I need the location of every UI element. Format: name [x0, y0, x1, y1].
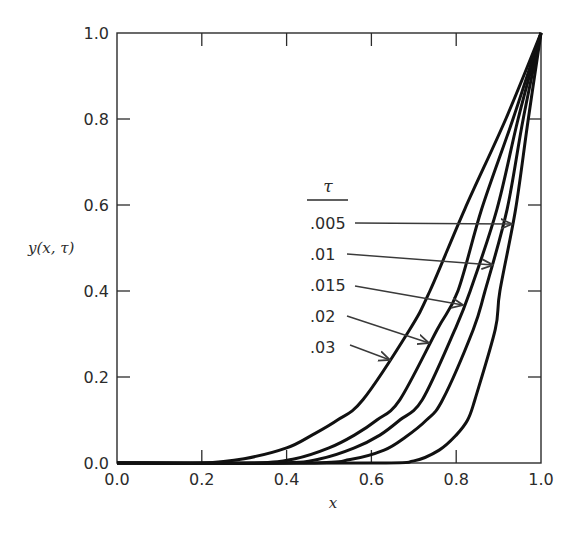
chart: 0.00.20.40.60.81.0 0.00.20.40.60.81.0 x …: [0, 0, 581, 534]
legend-annotations: .005.01.015.02.03: [310, 214, 512, 360]
legend-arrow: [355, 223, 512, 224]
legend-label: .015: [310, 276, 346, 295]
legend-label: .02: [310, 307, 335, 326]
x-tick-labels: 0.00.20.40.60.81.0: [104, 470, 553, 489]
y-tick-label: 0.4: [84, 282, 109, 301]
x-tick-label: 0.4: [274, 470, 299, 489]
x-tick-label: 0.8: [443, 470, 468, 489]
x-axis-title: x: [329, 494, 338, 512]
legend-arrow: [347, 254, 493, 265]
x-tick-label: 1.0: [528, 470, 553, 489]
legend-title: τ: [323, 176, 333, 196]
y-tick-labels: 0.00.20.40.60.81.0: [84, 24, 109, 473]
y-tick-label: 1.0: [84, 24, 109, 43]
y-tick-label: 0.2: [84, 368, 109, 387]
y-tick-label: 0.0: [84, 454, 109, 473]
y-axis-title: y(x, τ): [27, 239, 75, 257]
x-tick-label: 0.6: [359, 470, 384, 489]
legend-arrow: [355, 286, 463, 305]
legend-label: .01: [310, 245, 335, 264]
y-tick-label: 0.6: [84, 196, 109, 215]
legend-arrow: [350, 345, 390, 360]
y-tick-label: 0.8: [84, 110, 109, 129]
legend-label: .03: [310, 338, 335, 357]
x-tick-label: 0.2: [189, 470, 214, 489]
legend-label: .005: [310, 214, 346, 233]
